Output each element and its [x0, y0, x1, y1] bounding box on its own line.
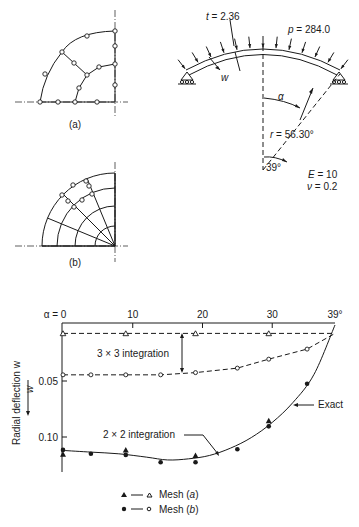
y-ticks: 0.050.10	[39, 376, 67, 443]
legend-label-mesh-a: Mesh (a)	[159, 489, 198, 500]
youngs-modulus-label: E = 10	[308, 169, 338, 180]
mesh-node	[95, 100, 99, 104]
left-support	[178, 72, 196, 84]
pressure-arrowhead	[221, 49, 224, 53]
pressure-arrowhead	[208, 53, 211, 57]
annotation-2x2-leader	[184, 435, 218, 454]
data-point	[89, 452, 94, 457]
mesh-node	[73, 100, 77, 104]
mesh-node	[113, 62, 117, 66]
right-support	[330, 72, 348, 84]
mesh-node	[72, 205, 76, 209]
mesh-node	[56, 100, 60, 104]
mesh-node	[66, 199, 70, 203]
x-tick-label: 30	[267, 309, 279, 320]
mesh-line	[62, 52, 115, 75]
figure-canvas: (a) (b) α 3	[0, 0, 359, 527]
series-mesh-a-3-3-integration	[60, 331, 335, 336]
deflection-label: w	[221, 72, 229, 83]
data-point	[194, 371, 198, 375]
filled-circle-icon	[122, 507, 126, 511]
data-point	[193, 452, 199, 458]
radius-label: r = 56.30°	[270, 129, 314, 140]
x-ticks: α = 010203039°	[44, 309, 343, 328]
mesh-b-grid	[42, 173, 115, 246]
pressure-arrowhead	[315, 53, 318, 57]
alpha-label: α	[278, 91, 284, 102]
data-point	[123, 447, 129, 453]
mesh-node	[77, 86, 81, 90]
mesh-node	[60, 193, 64, 197]
data-point	[60, 451, 66, 457]
series-layer	[60, 325, 335, 465]
data-point	[235, 366, 239, 370]
annotation-3x3: 3 × 3 integration	[97, 348, 169, 359]
annotation-2x2: 2 × 2 integration	[103, 429, 175, 440]
y-axis-title: Radial deflection w	[11, 360, 22, 445]
filled-triangle-icon	[121, 492, 127, 497]
mesh-node	[87, 184, 91, 188]
data-point	[123, 453, 128, 458]
poisson-ratio-label: ν = 0.2	[307, 181, 338, 192]
data-point	[124, 373, 128, 377]
mesh-node	[85, 73, 89, 77]
deflection-chart: α = 010203039° 0.050.10 Radial deflectio…	[11, 309, 343, 515]
data-point	[158, 460, 163, 465]
mesh-node	[72, 61, 76, 65]
shell-schematic: α 39° t = 2.36 w p = 284.0 r = 56.30° E …	[178, 11, 348, 192]
pressure-label: p = 284.0	[287, 24, 330, 35]
mesh-node	[113, 29, 117, 33]
thickness-label: t = 2.36	[206, 11, 240, 22]
data-point	[193, 460, 198, 465]
mesh-radial-line	[63, 194, 115, 246]
radius-line	[263, 74, 340, 170]
data-point	[235, 447, 240, 452]
data-point	[266, 418, 272, 424]
mesh-node	[90, 192, 94, 196]
data-point	[61, 448, 66, 453]
data-point	[159, 373, 163, 377]
x-tick-label: α = 0	[44, 309, 67, 320]
y-arrow-label: w	[24, 385, 35, 393]
y-tick-label: 0.10	[39, 432, 59, 443]
thickness-leader	[230, 20, 234, 46]
radius-arrowhead	[309, 88, 313, 94]
mesh-node	[71, 183, 75, 187]
mesh-node	[38, 100, 42, 104]
legend: Mesh (a) Mesh (b)	[121, 489, 198, 515]
mesh-node	[113, 83, 117, 87]
x-tick-label: 10	[127, 309, 139, 320]
data-point	[305, 382, 310, 387]
mesh-node	[97, 65, 101, 69]
data-point	[61, 373, 65, 377]
y-tick-label: 0.05	[39, 376, 59, 387]
mesh-a-caption: (a)	[69, 119, 81, 130]
data-point	[266, 424, 271, 429]
pressure-arrowhead	[302, 49, 305, 53]
thickness-leader	[235, 52, 240, 71]
mesh-node	[113, 44, 117, 48]
half-angle-label: 39°	[266, 162, 281, 173]
data-point	[305, 347, 309, 351]
legend-item-mesh-a: Mesh (a)	[121, 489, 198, 500]
x-tick-label: 39°	[327, 309, 342, 320]
legend-label-mesh-b: Mesh (b)	[159, 504, 198, 515]
mesh-node	[60, 50, 64, 54]
mesh-a-diagram: (a)	[15, 10, 128, 130]
annotation-exact: Exact	[318, 399, 343, 410]
mesh-node	[43, 72, 47, 76]
x-tick-label: 20	[197, 309, 209, 320]
open-circle-icon	[147, 507, 151, 511]
pressure-arrowhead	[328, 58, 331, 62]
open-triangle-icon	[147, 493, 152, 497]
legend-item-mesh-b: Mesh (b)	[122, 504, 199, 515]
mesh-node	[85, 34, 89, 38]
mesh-b-diagram: (b)	[15, 162, 128, 268]
data-point	[267, 357, 271, 361]
mesh-node	[80, 198, 84, 202]
data-point	[89, 373, 93, 377]
mesh-node	[84, 179, 88, 183]
pressure-arrowhead	[195, 58, 198, 62]
mesh-b-caption: (b)	[69, 257, 81, 268]
